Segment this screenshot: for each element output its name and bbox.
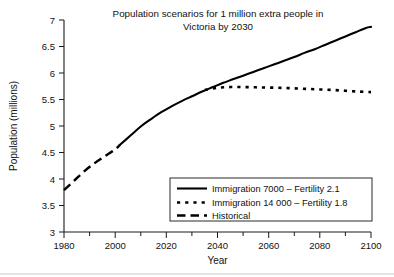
legend-label-immigration-7000: Immigration 7000 – Fertility 2.1 [212, 184, 340, 194]
x-tick-label: 2060 [258, 240, 279, 251]
y-tick-label: 4 [50, 174, 55, 185]
legend: Immigration 7000 – Fertility 2.1 Immigra… [170, 178, 372, 221]
y-tick-label: 3.5 [42, 200, 55, 211]
y-tick-label: 3 [50, 227, 55, 238]
chart-title-line-1: Population scenarios for 1 million extra… [113, 8, 324, 19]
chart-title-line-2: Victoria by 2030 [183, 21, 254, 32]
x-tick-label: 1980 [53, 240, 74, 251]
y-tick-label: 7 [50, 15, 55, 26]
y-tick-label: 5.5 [42, 94, 55, 105]
x-tick-label: 2100 [360, 240, 381, 251]
y-axis-title: Population (millions) [8, 81, 19, 171]
legend-label-historical: Historical [212, 211, 250, 221]
x-tick-label: 2000 [105, 240, 126, 251]
y-tick-label: 6.5 [42, 41, 55, 52]
population-scenarios-chart: Population scenarios for 1 million extra… [0, 0, 394, 277]
y-tick-label: 5 [50, 121, 55, 132]
x-tick-label: 2040 [207, 240, 228, 251]
x-axis-title: Year [207, 255, 228, 266]
legend-label-immigration-14000: Immigration 14 000 – Fertility 1.8 [212, 198, 347, 208]
x-tick-label: 2080 [309, 240, 330, 251]
y-tick-label: 6 [50, 68, 55, 79]
y-tick-label: 4.5 [42, 147, 55, 158]
x-tick-label: 2020 [156, 240, 177, 251]
